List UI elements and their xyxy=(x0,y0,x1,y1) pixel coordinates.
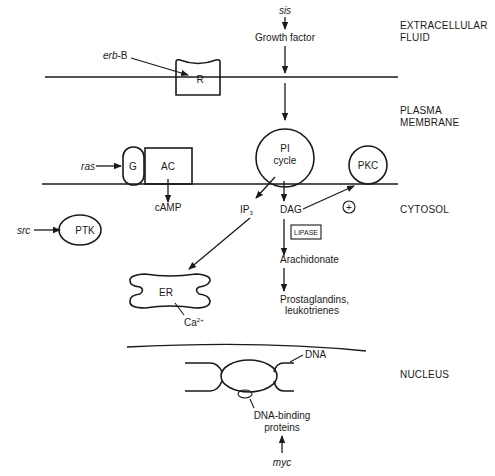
dna-pointer-line xyxy=(290,355,303,362)
calcium-label: Ca2+ xyxy=(184,317,204,328)
pi-cycle-label-1: PI xyxy=(280,143,289,154)
erb-b-oncogene-label: erb-B xyxy=(103,50,128,61)
svg-text:MEMBRANE: MEMBRANE xyxy=(400,117,460,128)
ip3-to-er-arrow xyxy=(189,218,250,269)
adenylate-cyclase-label: AC xyxy=(161,161,175,172)
g-protein-label: G xyxy=(129,161,137,172)
pkc-label: PKC xyxy=(358,160,379,171)
dna-binding-pointer-line xyxy=(250,399,254,408)
pi-cycle-label-2: cycle xyxy=(274,155,297,166)
svg-text:EXTRACELLULAR: EXTRACELLULAR xyxy=(400,20,488,31)
er-label: ER xyxy=(159,287,173,298)
ras-oncogene-label: ras xyxy=(81,161,95,172)
growth-factor-label: Growth factor xyxy=(255,32,316,43)
src-oncogene-label: src xyxy=(17,225,30,236)
lipase-label: LIPASE xyxy=(294,229,318,236)
prostaglandins-label-2: leukotrienes xyxy=(285,305,339,316)
region-cytosol-label: CYTOSOL xyxy=(400,204,449,215)
region-plasma-membrane-label: PLASMA MEMBRANE xyxy=(400,105,460,128)
ptk-label: PTK xyxy=(75,225,95,236)
calcium-pointer-line xyxy=(175,303,184,315)
ip3-label: IP3 xyxy=(240,204,253,216)
dna-binding-proteins-label-2: proteins xyxy=(264,422,300,433)
oncogene-signaling-diagram: EXTRACELLULAR FLUID PLASMA MEMBRANE CYTO… xyxy=(0,0,495,476)
receptor-label: R xyxy=(196,74,203,85)
myc-oncogene-label: myc xyxy=(273,457,291,468)
dna-label: DNA xyxy=(305,349,326,360)
camp-label: cAMP xyxy=(155,202,182,213)
svg-text:PLASMA: PLASMA xyxy=(400,105,442,116)
svg-text:FLUID: FLUID xyxy=(400,32,430,43)
sis-oncogene-label: sis xyxy=(279,5,291,16)
dag-label: DAG xyxy=(280,204,302,215)
arachidonate-label: Arachidonate xyxy=(280,254,339,265)
region-extracellular-label: EXTRACELLULAR FLUID xyxy=(400,20,488,43)
region-nucleus-label: NUCLEUS xyxy=(400,369,449,380)
nuclear-membrane-line xyxy=(127,344,366,351)
dna-shape xyxy=(185,360,294,392)
activation-plus-icon: + xyxy=(346,202,352,213)
prostaglandins-label-1: Prostaglandins, xyxy=(280,294,349,305)
dna-binding-proteins-label-1: DNA-binding xyxy=(254,410,311,421)
